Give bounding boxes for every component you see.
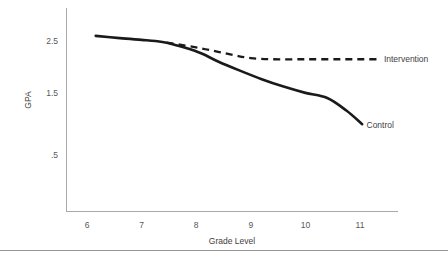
series-label-intervention: Intervention	[384, 54, 429, 64]
x-tick-label-0: 6	[85, 220, 90, 230]
y-tick-label-1: 1.5	[46, 88, 58, 98]
x-tick-label-3: 9	[248, 220, 253, 230]
y-tick-label-0: 2.5	[46, 36, 58, 46]
x-axis-title: Grade Level	[209, 236, 255, 246]
x-tick-label-2: 8	[194, 220, 199, 230]
x-tick-label-1: 7	[139, 220, 144, 230]
chart-figure: 2.5 1.5 .5 GPA 6 7 8 9 10 11 Grade Level…	[0, 0, 448, 259]
y-axis-title: GPA	[23, 91, 33, 109]
series-label-control: Control	[367, 120, 395, 130]
y-tick-label-2: .5	[51, 150, 58, 160]
x-tick-label-5: 11	[356, 220, 365, 230]
line-chart: 2.5 1.5 .5 GPA 6 7 8 9 10 11 Grade Level…	[0, 0, 448, 259]
x-tick-label-4: 10	[301, 220, 311, 230]
